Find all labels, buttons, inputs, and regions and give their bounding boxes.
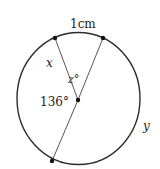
chord-x-label: x	[46, 56, 53, 70]
arc-y-label: y	[142, 119, 150, 133]
point-bottom	[50, 159, 54, 163]
angle-z-label: z°	[67, 73, 79, 86]
point-top-right	[101, 36, 105, 40]
radius-top-right	[78, 38, 103, 100]
circle-diagram: 1cm x z° 136° y	[0, 0, 160, 169]
angle-136-label: 136°	[40, 95, 69, 109]
radius-bottom	[52, 100, 78, 161]
radius-top-left	[55, 38, 78, 100]
point-top-left	[53, 36, 57, 40]
center-point	[76, 98, 80, 102]
arc-length-label: 1cm	[70, 17, 96, 31]
